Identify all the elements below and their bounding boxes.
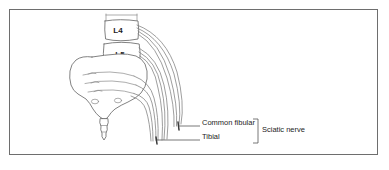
label-sciatic-nerve: Sciatic nerve bbox=[262, 126, 305, 134]
label-common-fibular: Common fibular bbox=[202, 119, 255, 127]
anatomy-diagram: L4 L5 bbox=[0, 0, 389, 170]
common-fibular-trunk bbox=[178, 122, 179, 130]
figure-root: L4 L5 bbox=[0, 0, 389, 170]
label-tibial: Tibial bbox=[202, 133, 220, 141]
vertebra-l4: L4 bbox=[105, 14, 139, 41]
coccyx bbox=[100, 119, 109, 140]
tibial-trunk bbox=[156, 137, 157, 144]
sacrum bbox=[70, 54, 148, 140]
l4-label: L4 bbox=[113, 26, 123, 35]
sacrum-outline bbox=[70, 54, 148, 119]
nerve-root-s4 bbox=[131, 96, 151, 141]
